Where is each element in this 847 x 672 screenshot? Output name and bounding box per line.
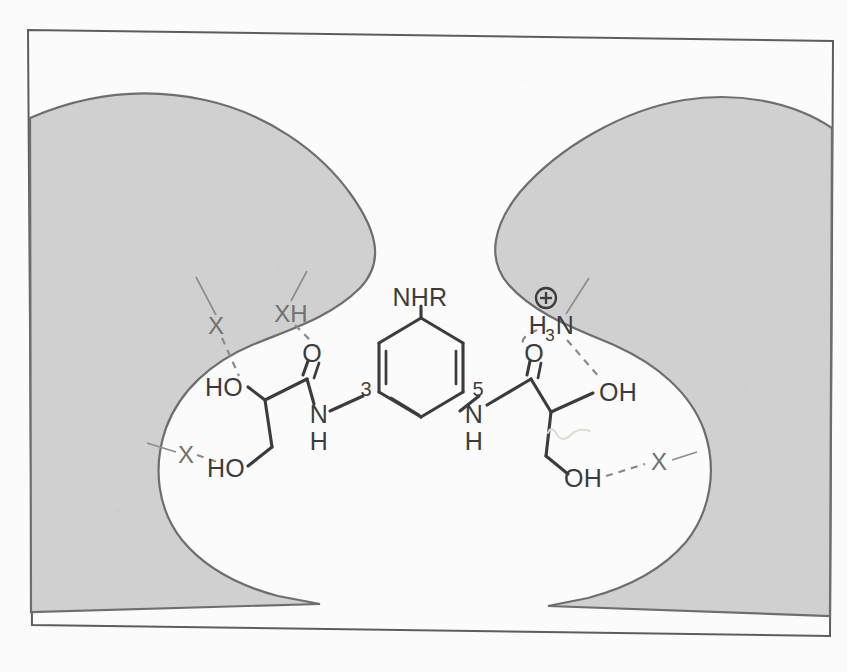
label-position-3: 3: [360, 378, 371, 400]
bond-right-n-to-carbonyl: [487, 379, 531, 405]
label-residue-left-lower-x: X: [178, 441, 194, 468]
label-left-carbonyl-o: O: [302, 339, 322, 367]
pocket-left-lobe: [30, 94, 375, 612]
label-residue-left-xh: XH: [274, 300, 307, 327]
label-right-amide-n: N: [465, 400, 483, 428]
structure-diagram: NHR 3 5 O HO HO N H O OH OH N H X XH X X…: [0, 0, 847, 672]
pencil-smudge: [548, 429, 590, 439]
label-residue-right-lower-x: X: [651, 448, 667, 475]
label-ammonium-n: N: [556, 311, 574, 339]
ring-bond-c6-c1: [421, 318, 463, 343]
hbond-right-x-to-terminal-oh: [606, 464, 645, 476]
ring-bond-c1-c2: [379, 318, 421, 343]
label-position-5: 5: [472, 378, 483, 400]
hbond-ammonium-to-alpha-oh: [567, 340, 600, 378]
label-left-terminal-ho: HO: [207, 454, 245, 482]
bond-right-carbonyl-to-alpha: [531, 379, 551, 412]
tether-right-lower-x: [672, 452, 697, 460]
label-left-amide-n: N: [310, 400, 328, 428]
bond-left-alpha-to-carbonyl: [265, 379, 307, 400]
label-right-amide-h: H: [465, 427, 483, 455]
bond-left-n-to-ring: [330, 396, 363, 411]
bond-left-ch2-to-oh: [248, 447, 272, 466]
label-left-amide-h: H: [310, 427, 328, 455]
ring-aromatic-line-2: [391, 398, 419, 415]
label-nhr: NHR: [393, 283, 448, 311]
label-right-terminal-oh: OH: [564, 464, 602, 492]
bond-right-alpha-to-oh: [551, 393, 593, 412]
bond-left-alpha-to-ch2: [265, 400, 272, 447]
bond-left-alpha-to-ho: [248, 387, 265, 400]
ring-bond-c4-c5: [421, 392, 463, 417]
figure-canvas: NHR 3 5 O HO HO N H O OH OH N H X XH X X…: [0, 0, 847, 672]
bond-right-alpha-to-ch2: [546, 412, 551, 456]
label-ammonium-subscript: 3: [545, 326, 555, 345]
label-right-carbonyl-o: O: [524, 339, 544, 367]
label-residue-left-upper-x: X: [208, 312, 224, 339]
label-left-alpha-ho: HO: [205, 373, 243, 401]
pocket-right-lobe: [495, 97, 832, 616]
label-right-alpha-oh: OH: [599, 378, 637, 406]
